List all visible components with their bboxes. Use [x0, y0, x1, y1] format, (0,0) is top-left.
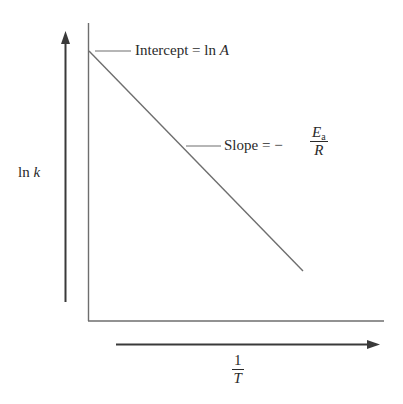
slope-numerator-subscript: a: [321, 131, 325, 142]
y-axis-label: ln k: [18, 165, 40, 180]
y-direction-arrow-icon: [61, 31, 70, 302]
data-line: [89, 51, 303, 271]
slope-numerator: E: [312, 124, 321, 140]
x-axis-denominator: T: [234, 370, 242, 386]
x-axis-label: 1 T: [232, 353, 244, 386]
slope-denominator: R: [314, 142, 323, 158]
intercept-variable: A: [220, 42, 229, 58]
x-direction-arrow-icon: [116, 340, 380, 349]
slope-fraction: Ea R: [310, 125, 328, 158]
y-axis-label-prefix: ln: [18, 164, 33, 180]
slope-annotation-text: Slope = −: [224, 138, 283, 153]
plot-canvas: [0, 0, 403, 404]
intercept-annotation: Intercept = ln A: [135, 43, 229, 58]
intercept-text: Intercept = ln: [135, 42, 220, 58]
x-axis-numerator: 1: [232, 353, 244, 369]
slope-text: Slope = −: [224, 137, 283, 153]
y-axis-variable: k: [33, 164, 40, 180]
